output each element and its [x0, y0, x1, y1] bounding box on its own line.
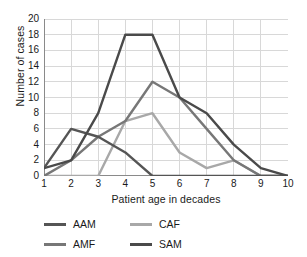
x-tick-label: 6 [168, 178, 192, 190]
legend-swatch-icon [44, 243, 66, 246]
x-tick-label: 4 [113, 178, 137, 190]
plot-area [44, 19, 288, 176]
x-tick-label: 1 [32, 178, 56, 190]
legend-item-amf: AMF [44, 238, 130, 250]
x-tick-label: 10 [276, 178, 300, 190]
y-tick-label: 10 [19, 93, 39, 103]
legend-label: AMF [73, 238, 95, 250]
x-tick-label: 2 [59, 178, 83, 190]
x-tick-label: 9 [249, 178, 273, 190]
y-tick-label: 4 [19, 140, 39, 150]
chart-legend: AAMCAFAMFSAM [44, 214, 224, 254]
y-tick-label: 12 [19, 77, 39, 87]
y-tick-label: 6 [19, 124, 39, 134]
y-tick-label: 16 [19, 45, 39, 55]
data-series-sam [44, 35, 288, 176]
legend-item-sam: SAM [130, 238, 216, 250]
legend-item-aam: AAM [44, 218, 130, 230]
legend-swatch-icon [130, 243, 152, 246]
legend-label: CAF [159, 218, 180, 230]
chart-figure: Number of cases 02468101214161820 123456… [0, 0, 307, 257]
x-tick-label: 3 [86, 178, 110, 190]
x-tick-label: 5 [140, 178, 164, 190]
x-tick-label: 7 [195, 178, 219, 190]
legend-label: AAM [73, 218, 96, 230]
y-tick-label: 20 [19, 14, 39, 24]
y-axis-tick-labels: 02468101214161820 [19, 14, 39, 176]
y-tick-label: 14 [19, 61, 39, 71]
legend-swatch-icon [130, 223, 152, 226]
legend-item-caf: CAF [130, 218, 216, 230]
y-tick-label: 8 [19, 108, 39, 118]
legend-swatch-icon [44, 223, 66, 226]
x-axis-tick-labels: 12345678910 [44, 178, 288, 192]
y-tick-label: 2 [19, 155, 39, 165]
x-tick-label: 8 [222, 178, 246, 190]
y-tick-label: 18 [19, 30, 39, 40]
plot-svg [44, 19, 288, 176]
x-axis-title: Patient age in decades [44, 193, 288, 205]
legend-label: SAM [159, 238, 182, 250]
